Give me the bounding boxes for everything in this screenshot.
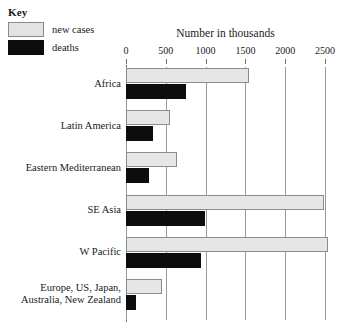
category-axis-labels: AfricaLatin AmericaEastern Mediterranean…: [0, 67, 126, 320]
category-label: W Pacific: [8, 246, 126, 258]
plot-area: 05001000150020002500: [126, 67, 325, 320]
legend-swatch-new-cases: [8, 22, 44, 37]
bar-new-cases: [126, 195, 324, 210]
category-label: SE Asia: [8, 204, 126, 216]
x-tick-1500: [245, 59, 246, 64]
bar-new-cases: [126, 152, 177, 167]
x-tick-2500: [325, 59, 326, 64]
chart-title: Number in thousands: [126, 27, 325, 40]
x-tick-label-1500: 1500: [235, 45, 255, 56]
legend-label-new-cases: new cases: [52, 24, 94, 36]
category-label: Africa: [8, 78, 126, 90]
legend-key: Key new cases deaths: [8, 6, 128, 58]
bar-new-cases: [126, 237, 328, 252]
category-label-line: SE Asia: [8, 204, 121, 216]
category-label-line: Latin America: [8, 120, 121, 132]
bar-new-cases: [126, 110, 170, 125]
bar-group: [126, 279, 325, 319]
x-tick-label-500: 500: [158, 45, 173, 56]
x-tick-label-2500: 2500: [315, 45, 335, 56]
legend-item-deaths: deaths: [8, 40, 128, 55]
bar-new-cases: [126, 68, 249, 83]
bar-group: [126, 110, 325, 150]
category-label: Europe, US, Japan,Australia, New Zealand: [8, 282, 126, 306]
x-tick-label-1000: 1000: [196, 45, 216, 56]
category-label-line: Europe, US, Japan,: [8, 282, 121, 294]
bar-deaths: [126, 211, 205, 226]
bar-deaths: [126, 295, 136, 310]
bar-deaths: [126, 126, 153, 141]
category-label-line: Australia, New Zealand: [8, 294, 121, 306]
bar-new-cases: [126, 279, 162, 294]
category-label-line: W Pacific: [8, 246, 121, 258]
category-label: Latin America: [8, 120, 126, 132]
x-tick-1000: [206, 59, 207, 64]
category-label: Eastern Mediterranean: [8, 162, 126, 174]
bar-group: [126, 68, 325, 108]
bar-group: [126, 237, 325, 277]
category-label-line: Eastern Mediterranean: [8, 162, 121, 174]
bar-group: [126, 195, 325, 235]
x-tick-2000: [285, 59, 286, 64]
x-tick-label-0: 0: [124, 45, 129, 56]
gridline-2500: [325, 67, 326, 320]
x-tick-label-2000: 2000: [275, 45, 295, 56]
x-tick-0: [126, 59, 127, 64]
bar-group: [126, 152, 325, 192]
legend-title: Key: [8, 6, 128, 19]
bar-deaths: [126, 84, 186, 99]
x-tick-500: [166, 59, 167, 64]
legend-item-new-cases: new cases: [8, 22, 128, 37]
legend-label-deaths: deaths: [52, 42, 79, 54]
bar-deaths: [126, 168, 149, 183]
category-label-line: Africa: [8, 78, 121, 90]
legend-swatch-deaths: [8, 40, 44, 55]
bar-deaths: [126, 253, 201, 268]
